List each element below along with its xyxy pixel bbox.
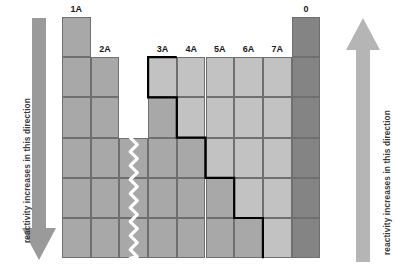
table-cell: [62, 178, 91, 218]
table-cell: [62, 17, 91, 57]
table-cell: [263, 178, 292, 218]
column-header-6a: 6A: [234, 44, 263, 54]
table-cell: [119, 138, 148, 178]
diagram-canvas: reactivity increases in this direction r…: [0, 0, 395, 277]
table-cell: [292, 138, 321, 178]
column-header-4a: 4A: [177, 44, 206, 54]
table-cell: [62, 218, 91, 258]
table-cell: [62, 138, 91, 178]
column-header-3a: 3A: [148, 44, 177, 54]
table-cell: [234, 97, 263, 137]
table-cell: [206, 57, 235, 97]
table-cell: [91, 97, 120, 137]
table-cell: [292, 178, 321, 218]
table-cell: [148, 97, 177, 137]
table-cell: [62, 57, 91, 97]
table-cell: [177, 218, 206, 258]
column-header-7a: 7A: [263, 44, 292, 54]
table-cell: [177, 138, 206, 178]
table-cell: [177, 178, 206, 218]
table-cell: [292, 57, 321, 97]
table-cell: [263, 138, 292, 178]
table-cell: [206, 138, 235, 178]
table-cell: [234, 218, 263, 258]
table-cell: [292, 17, 321, 57]
table-cell: [62, 97, 91, 137]
table-cell: [119, 218, 148, 258]
left-reactivity-arrow: reactivity increases in this direction: [0, 0, 58, 277]
table-cell: [148, 178, 177, 218]
column-header-5a: 5A: [206, 44, 235, 54]
table-cell: [206, 178, 235, 218]
column-header-2a: 2A: [91, 44, 120, 54]
column-header-0: 0: [292, 4, 321, 14]
table-cell: [234, 57, 263, 97]
table-cell: [91, 218, 120, 258]
table-cell: [119, 178, 148, 218]
table-cell: [148, 57, 177, 97]
table-cell: [148, 218, 177, 258]
table-cell: [91, 178, 120, 218]
table-cell: [292, 218, 321, 258]
left-arrow-label: reactivity increases in this direction: [22, 98, 32, 243]
table-cell: [91, 138, 120, 178]
table-cell: [177, 97, 206, 137]
table-cell: [263, 97, 292, 137]
right-arrow-label: reactivity increases in this direction: [382, 110, 392, 255]
table-cell: [177, 57, 206, 97]
table-cell: [91, 57, 120, 97]
table-cell: [206, 218, 235, 258]
table-cell: [292, 97, 321, 137]
column-header-1a: 1A: [62, 4, 91, 14]
table-cell: [148, 138, 177, 178]
right-reactivity-arrow: reactivity increases in this direction: [338, 0, 395, 277]
table-cell: [263, 57, 292, 97]
table-cell: [234, 178, 263, 218]
table-cell: [234, 138, 263, 178]
table-cell: [206, 97, 235, 137]
table-cell: [263, 218, 292, 258]
